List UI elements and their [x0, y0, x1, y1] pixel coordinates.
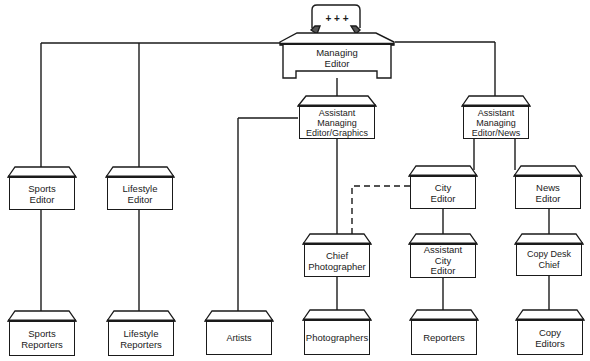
node-label: City Editor — [431, 182, 456, 204]
node-label: Managing Editor — [283, 46, 391, 69]
node-label: Assistant Managing Editor/News — [472, 108, 521, 138]
chair-marks: + + + — [321, 13, 353, 24]
node-label: Assistant Managing Editor/Graphics — [306, 108, 368, 138]
node-label: Copy Desk Chief — [527, 249, 571, 271]
node-label: Sports Reporters — [21, 328, 63, 350]
node-label: Artists — [226, 333, 251, 344]
node-label: News Editor — [536, 182, 561, 204]
node-label: Lifestyle Editor — [123, 183, 158, 205]
node-label: Copy Editors — [535, 327, 565, 349]
node-label: Chief Photographer — [308, 250, 366, 272]
node-label: Lifestyle Reporters — [120, 328, 162, 350]
node-managing-editor: + + + Managing Editor — [283, 46, 391, 70]
node-label: Assistant City Editor — [424, 245, 463, 277]
node-label: Sports Editor — [28, 183, 55, 205]
node-label: Reporters — [423, 332, 465, 343]
node-label: Photographers — [306, 332, 368, 343]
